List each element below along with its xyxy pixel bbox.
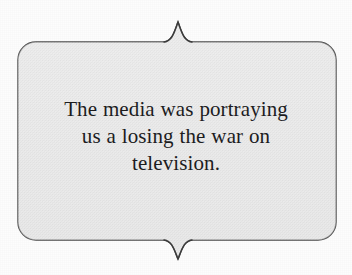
- quote-text-block: The media was portraying us a losing the…: [26, 96, 326, 177]
- quote-line-2: us a losing the war on: [26, 123, 326, 150]
- quote-line-1: The media was portraying: [26, 96, 326, 123]
- callout-canvas: The media was portraying us a losing the…: [0, 0, 352, 275]
- quote-line-3: television.: [26, 150, 326, 177]
